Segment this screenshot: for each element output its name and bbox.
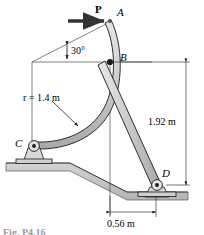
figure-container: P A B C D 30° r = 1.4 m 1.92 m 0.56 m Fi… bbox=[0, 0, 204, 235]
radius-leader-line bbox=[52, 101, 78, 126]
point-label-d: D bbox=[162, 168, 170, 179]
figure-caption: Fig. P4.16 bbox=[3, 228, 46, 235]
force-label-p: P bbox=[95, 4, 102, 15]
point-a-marker bbox=[108, 19, 112, 23]
vertical-dimension-label: 1.92 m bbox=[148, 117, 176, 127]
pin-support-d bbox=[138, 180, 176, 197]
point-label-c: C bbox=[15, 138, 22, 149]
radius-label: r = 1.4 m bbox=[23, 93, 60, 103]
radius-line-to-a bbox=[32, 22, 110, 62]
horizontal-dimension-label: 0.56 m bbox=[107, 219, 135, 229]
angle-label-30: 30° bbox=[71, 46, 85, 56]
point-label-a: A bbox=[117, 7, 124, 18]
point-label-b: B bbox=[120, 52, 127, 63]
